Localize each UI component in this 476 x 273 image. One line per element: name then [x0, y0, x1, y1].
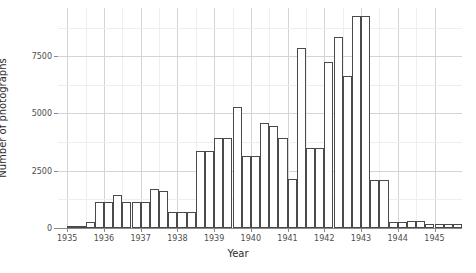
x-axis-title: Year	[0, 248, 476, 259]
histogram-bar	[196, 151, 205, 228]
y-axis-title: Number of photographs	[0, 58, 8, 178]
histogram-bar	[187, 212, 196, 228]
histogram-bar	[159, 191, 168, 228]
histogram-bar	[352, 16, 361, 228]
histogram-bar	[288, 179, 297, 228]
x-axis-tick	[435, 228, 436, 232]
x-tick-label: 1942	[314, 234, 334, 243]
x-axis-tick	[177, 228, 178, 232]
x-tick-label: 1943	[351, 234, 371, 243]
histogram-bar	[315, 148, 324, 228]
y-axis-tick	[54, 113, 58, 114]
histogram-bar	[132, 202, 141, 228]
x-axis-tick	[104, 228, 105, 232]
x-tick-label: 1939	[204, 234, 224, 243]
y-axis-tick	[54, 56, 58, 57]
x-tick-label: 1936	[94, 234, 114, 243]
bar-series	[58, 8, 462, 228]
x-axis-tick	[288, 228, 289, 232]
histogram-bar	[269, 126, 278, 228]
x-axis-tick	[324, 228, 325, 232]
plot-panel	[58, 8, 462, 228]
x-tick-label: 1941	[277, 234, 297, 243]
x-tick-label: 1938	[167, 234, 187, 243]
x-axis-line	[58, 228, 462, 229]
histogram-bar	[306, 148, 315, 228]
histogram-bar	[223, 138, 232, 229]
histogram-bar	[104, 202, 113, 228]
histogram-bar	[361, 16, 370, 228]
histogram-bar	[122, 202, 131, 228]
x-axis-tick	[398, 228, 399, 232]
histogram-bar	[416, 221, 425, 228]
histogram-bar	[205, 151, 214, 228]
histogram-bar	[407, 221, 416, 228]
y-tick-label: 2500	[32, 166, 52, 175]
histogram-bar	[251, 156, 260, 228]
x-axis-tick	[141, 228, 142, 232]
x-tick-label: 1935	[57, 234, 77, 243]
histogram-bar	[141, 202, 150, 228]
x-tick-label: 1945	[424, 234, 444, 243]
histogram-bar	[95, 202, 104, 228]
y-tick-label: 7500	[32, 52, 52, 61]
x-axis-tick	[214, 228, 215, 232]
histogram-bar	[113, 195, 122, 228]
x-axis-tick	[67, 228, 68, 232]
histogram-bar	[150, 189, 159, 228]
histogram-bar	[168, 212, 177, 228]
x-axis-tick	[251, 228, 252, 232]
x-tick-label: 1944	[388, 234, 408, 243]
histogram-bar	[324, 62, 333, 228]
x-axis-tick	[361, 228, 362, 232]
histogram-bar	[297, 48, 306, 228]
histogram-bar	[379, 180, 388, 228]
x-tick-label: 1940	[241, 234, 261, 243]
y-axis-tick	[54, 171, 58, 172]
histogram-bar	[233, 107, 242, 229]
histogram-bar	[214, 138, 223, 229]
histogram-figure: 1935193619371938193919401941194219431944…	[0, 0, 476, 273]
x-tick-label: 1937	[130, 234, 150, 243]
y-tick-label: 0	[47, 224, 52, 233]
y-axis-tick	[54, 228, 58, 229]
histogram-bar	[260, 123, 269, 228]
y-tick-label: 5000	[32, 109, 52, 118]
histogram-bar	[177, 212, 186, 228]
histogram-bar	[334, 37, 343, 228]
histogram-bar	[242, 156, 251, 228]
histogram-bar	[278, 138, 287, 229]
histogram-bar	[343, 76, 352, 228]
histogram-bar	[370, 180, 379, 228]
